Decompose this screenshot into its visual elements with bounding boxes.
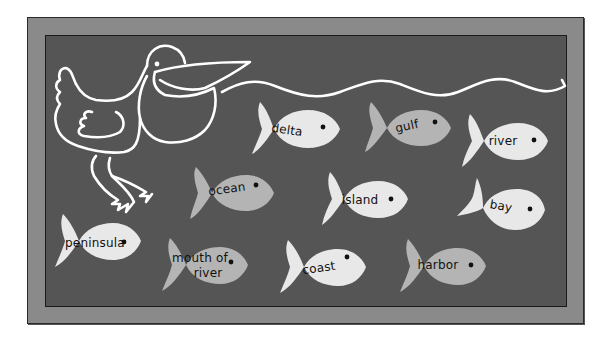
fish-peninsula[interactable]: peninsula [53, 212, 143, 270]
pelican-wing [79, 111, 124, 137]
fish-mouth-of-river[interactable]: mouth of river [160, 236, 250, 294]
fish-bay[interactable]: bay [455, 178, 547, 236]
pelican-neck [76, 66, 147, 101]
fish-shape-icon [160, 236, 250, 294]
fish-coast[interactable]: coast [278, 238, 368, 296]
fish-ocean[interactable]: ocean [188, 165, 276, 223]
water-line [222, 79, 565, 96]
pelican-tail [55, 68, 140, 153]
fish-island[interactable]: island [318, 170, 410, 228]
fish-delta[interactable]: delta [250, 100, 342, 158]
fish-label-line2: river [188, 267, 228, 280]
fish-label: peninsula [65, 237, 121, 250]
fish-gulf[interactable]: gulf [363, 100, 453, 156]
fish-label: river [480, 135, 526, 148]
pelican-leg [92, 156, 134, 212]
fish-label: mouth of [172, 252, 226, 265]
pelican-eye [155, 62, 160, 67]
fish-river[interactable]: river [458, 112, 550, 170]
fish-label: island [338, 194, 382, 207]
pelican-head [147, 46, 185, 66]
fish-label: harbor [414, 259, 462, 272]
fish-harbor[interactable]: harbor [398, 237, 488, 295]
pelican-pouch [139, 72, 216, 143]
